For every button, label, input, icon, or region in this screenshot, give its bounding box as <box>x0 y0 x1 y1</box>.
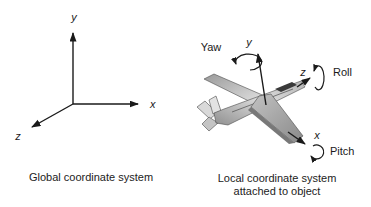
global-system-caption: Global coordinate system <box>29 171 153 183</box>
roll-rotation-arrow <box>314 66 324 90</box>
global-z-axis <box>32 104 73 127</box>
global-z-axis-label: z <box>14 130 21 142</box>
local-system-caption-line2: attached to object <box>234 185 321 197</box>
pitch-rotation-arrow <box>311 145 324 159</box>
global-x-axis-label: x <box>149 98 156 110</box>
global-y-axis-label: y <box>70 11 78 23</box>
local-z-axis-label: z <box>299 66 306 78</box>
local-x-axis-label: x <box>313 129 320 141</box>
local-system-caption-line1: Local coordinate system <box>218 172 337 184</box>
yaw-rotation-arrow <box>236 54 262 70</box>
coordinate-systems-figure: y x z Global coordinate system <box>0 0 371 207</box>
pitch-label: Pitch <box>330 145 354 157</box>
yaw-label: Yaw <box>201 41 222 53</box>
local-y-axis-label: y <box>245 36 253 48</box>
local-coordinate-system: y Yaw z Roll x Pitch Local coordinate sy… <box>197 36 354 197</box>
figure-canvas: y x z Global coordinate system <box>0 0 371 207</box>
airplane <box>197 74 305 144</box>
roll-label: Roll <box>333 66 352 78</box>
global-coordinate-system: y x z Global coordinate system <box>14 11 156 183</box>
